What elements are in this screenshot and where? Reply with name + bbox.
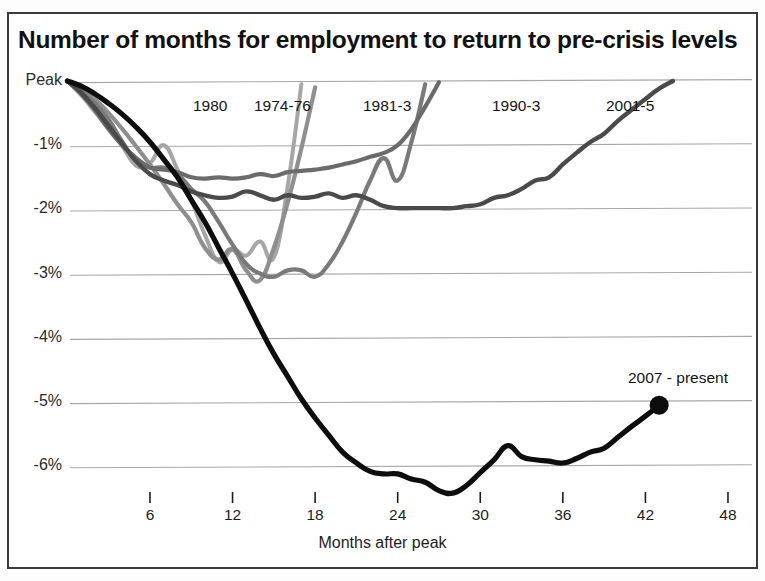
x-axis-tick-label: 36 (533, 506, 593, 524)
y-axis-tick-label: -4% (4, 328, 62, 346)
y-axis-tick-label: -3% (4, 264, 62, 282)
x-axis-tick-label: 12 (203, 506, 263, 524)
series-label-1990-3: 1990-3 (492, 97, 540, 115)
x-axis-tick-label: 6 (120, 506, 180, 524)
series-label-1974-76: 1974-76 (254, 97, 311, 115)
series-lines-group (67, 81, 673, 494)
gridline (70, 401, 752, 404)
y-axis-tick-label: Peak (4, 71, 62, 89)
series-label-1981-3: 1981-3 (363, 97, 411, 115)
y-axis-tick-label: -5% (4, 392, 62, 410)
gridline (70, 80, 752, 83)
x-axis-tick-label: 18 (285, 506, 345, 524)
series-label-1980: 1980 (193, 97, 227, 115)
x-axis-tick-label: 30 (450, 506, 510, 524)
series-end-marker (650, 396, 669, 415)
x-axis-tick-label: 42 (615, 506, 675, 524)
series-line-2007-present (67, 81, 659, 494)
gridline (70, 465, 752, 468)
x-axis-tick-label: 48 (698, 506, 758, 524)
tickmarks-group (150, 492, 728, 503)
y-axis-tick-label: -1% (4, 135, 62, 153)
gridline (70, 272, 752, 275)
x-axis-tick-label: 24 (368, 506, 428, 524)
series-label-2007-present: 2007 - present (628, 369, 728, 387)
chart-plot-area (0, 0, 765, 581)
y-axis-tick-label: -2% (4, 199, 62, 217)
series-label-2001-5: 2001-5 (606, 97, 654, 115)
gridline (70, 336, 752, 339)
y-axis-tick-label: -6% (4, 456, 62, 474)
chart-page: Number of months for employment to retur… (0, 0, 765, 581)
x-axis-title: Months after peak (0, 534, 765, 552)
